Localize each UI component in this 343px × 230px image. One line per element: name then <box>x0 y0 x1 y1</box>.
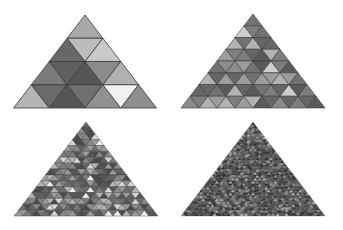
panel-level-4 <box>181 122 325 216</box>
subtriangle <box>82 122 91 128</box>
panel-level-2 <box>181 14 325 108</box>
panel-level-1 <box>14 15 157 108</box>
subtriangle <box>251 122 256 125</box>
triangle-subdivision-figure <box>0 0 343 230</box>
subtriangle <box>67 15 103 38</box>
subtriangle <box>244 14 262 26</box>
panel-level-3 <box>14 122 158 216</box>
